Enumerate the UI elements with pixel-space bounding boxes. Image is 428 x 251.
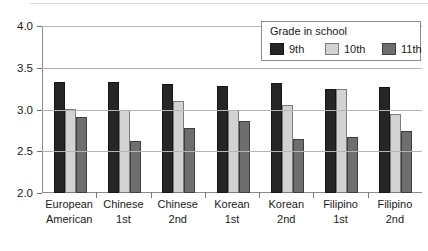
bar: [293, 139, 304, 193]
top-divider: [30, 3, 428, 4]
bar: [108, 82, 119, 193]
y-axis-tick-label: 2.5: [17, 146, 33, 157]
bar: [336, 89, 347, 193]
bar: [162, 84, 173, 193]
bar: [271, 83, 282, 193]
x-axis-category-line: Korean: [205, 197, 259, 212]
legend-swatch-icon: [325, 43, 339, 55]
y-axis-tick-label: 3.0: [17, 105, 33, 116]
x-axis-category-line: 2nd: [368, 212, 422, 227]
bar: [239, 121, 250, 193]
bar: [379, 87, 390, 193]
bar: [347, 137, 358, 193]
x-axis-category-line: American: [42, 212, 96, 227]
bar: [184, 128, 195, 193]
y-axis-tick-label: 4.0: [17, 21, 33, 32]
x-axis-category-line: Filipino: [313, 197, 367, 212]
y-axis-tick-label: 3.5: [17, 63, 33, 74]
y-axis-labels: 2.02.53.03.54.0: [0, 26, 42, 193]
gridline: [42, 110, 422, 111]
x-axis-category-label: Korean1st: [205, 197, 259, 226]
y-axis-tick-label: 2.0: [17, 188, 33, 199]
x-axis-category-label: Filipino2nd: [368, 197, 422, 226]
bar: [390, 114, 401, 193]
x-axis-category-line: 2nd: [259, 212, 313, 227]
legend-item-label: 11th: [401, 43, 422, 55]
x-axis-category-label: Chinese1st: [96, 197, 150, 226]
x-axis-category-label: Filipino1st: [313, 197, 367, 226]
y-axis-tick: [37, 110, 42, 111]
x-axis-labels: EuropeanAmericanChinese1stChinese2ndKore…: [42, 197, 422, 247]
x-axis-category-label: EuropeanAmerican: [42, 197, 96, 226]
bar: [217, 86, 228, 193]
x-axis-category-line: 1st: [96, 212, 150, 227]
legend-item-label: 10th: [344, 43, 365, 55]
x-axis-category-line: European: [42, 197, 96, 212]
bar: [401, 131, 412, 193]
legend: Grade in school 9th10th11th: [261, 21, 421, 61]
legend-swatch-icon: [270, 43, 284, 55]
bar: [54, 82, 65, 193]
x-axis-category-line: Chinese: [151, 197, 205, 212]
x-axis-category-line: 1st: [313, 212, 367, 227]
x-axis-category-line: Chinese: [96, 197, 150, 212]
x-axis-category-line: 1st: [205, 212, 259, 227]
x-axis-category-line: 2nd: [151, 212, 205, 227]
y-axis-tick: [37, 151, 42, 152]
x-axis-category-label: Korean2nd: [259, 197, 313, 226]
legend-item-label: 9th: [289, 43, 304, 55]
legend-swatch-icon: [382, 43, 396, 55]
bar: [130, 141, 141, 193]
y-axis-tick: [37, 26, 42, 27]
bar: [282, 105, 293, 194]
bar: [325, 89, 336, 193]
y-axis-tick: [37, 68, 42, 69]
x-axis-category-line: Filipino: [368, 197, 422, 212]
bar: [76, 117, 87, 193]
legend-title: Grade in school: [270, 25, 347, 37]
x-axis-category-line: Korean: [259, 197, 313, 212]
bar-chart: 2.02.53.03.54.0 EuropeanAmericanChinese1…: [0, 0, 428, 251]
x-axis-category-label: Chinese2nd: [151, 197, 205, 226]
bar: [173, 101, 184, 193]
y-axis-tick: [37, 193, 42, 194]
gridline: [42, 68, 422, 69]
gridline: [42, 151, 422, 152]
